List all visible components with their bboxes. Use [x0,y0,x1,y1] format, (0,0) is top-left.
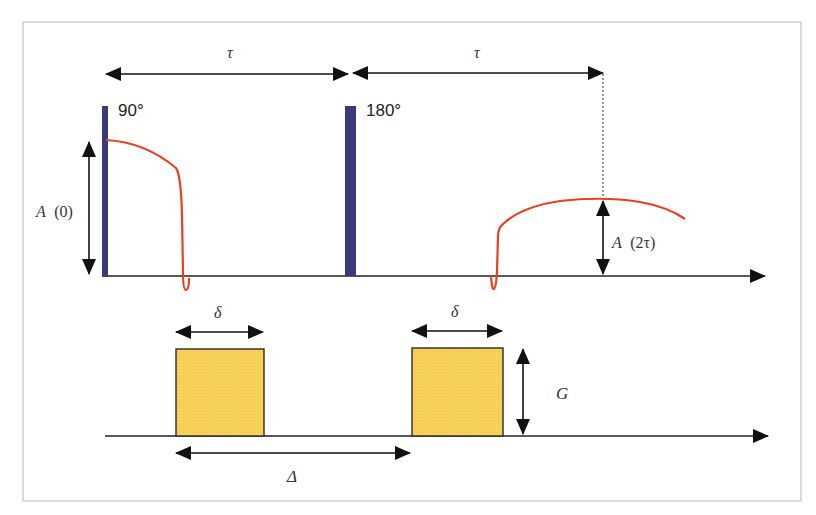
amplitude-initial-label: A (0) [35,203,73,221]
rf-pulse-90 [102,106,108,277]
pulse-label-180: 180° [366,101,401,120]
delta-label-2: δ [451,303,459,320]
amplitude-echo-label: A (2τ) [611,234,655,252]
rf-pulse-180 [345,106,356,276]
pulse-label-90: 90° [118,101,144,120]
delta-label-1: δ [214,304,222,321]
gradient-pulse-1 [176,349,264,436]
pfg-spin-echo-diagram: τ τ 90° 180° A (0) A (2τ) [0,0,816,515]
gradient-pulse-2 [412,348,503,436]
gradient-amplitude-label: G [556,384,568,403]
separation-label: Δ [286,467,297,486]
